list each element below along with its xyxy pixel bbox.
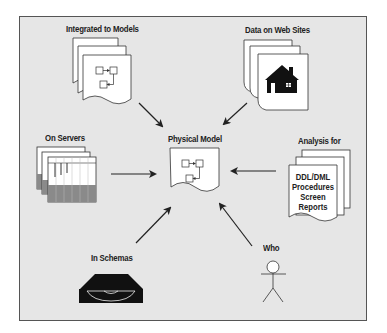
label-integrated-to-models: Integrated to Models [66,24,139,34]
stacked-flowchart-documents-icon [73,38,131,104]
label-who: Who [263,243,279,253]
stacked-spreadsheet-icon [37,147,96,202]
label-analysis-for: Analysis for [298,136,341,146]
arrow-web-to-model [224,103,247,124]
label-data-on-web-sites: Data on Web Sites [245,25,310,35]
disk-drive-icon [79,274,143,303]
stacked-house-documents-icon [244,40,308,110]
label-physical-model: Physical Model [168,134,222,144]
label-on-servers: On Servers [45,133,85,143]
diagram-canvas [0,0,387,333]
doc-line-reports: Reports [291,202,336,213]
flowchart-document-icon [170,148,219,191]
arrow-integrated-to-model [139,103,162,126]
label-in-schemas: In Schemas [91,253,133,263]
arrow-who-to-model [220,204,252,246]
arrow-schemas-to-model [136,208,170,243]
stick-figure-icon [261,261,286,302]
